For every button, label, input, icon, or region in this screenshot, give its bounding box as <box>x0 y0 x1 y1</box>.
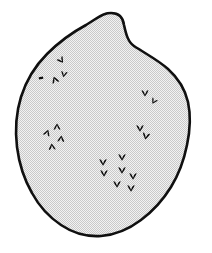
cell-outline <box>16 13 190 236</box>
cell-body-group <box>16 13 190 236</box>
cell-illustration-svg <box>0 0 212 253</box>
figure-container <box>0 0 212 253</box>
